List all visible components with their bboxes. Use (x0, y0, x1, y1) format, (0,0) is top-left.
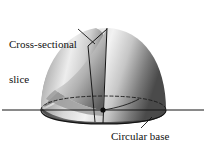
label-circular-base: Circular base (111, 131, 169, 143)
figure-container: Cross-sectional slice Circular base (0, 0, 206, 153)
label-cross-sectional-line2: slice (9, 74, 77, 86)
label-cross-sectional-slice: Cross-sectional slice (9, 16, 77, 108)
label-cross-sectional-line1: Cross-sectional (9, 39, 77, 51)
center-dot (100, 107, 105, 112)
